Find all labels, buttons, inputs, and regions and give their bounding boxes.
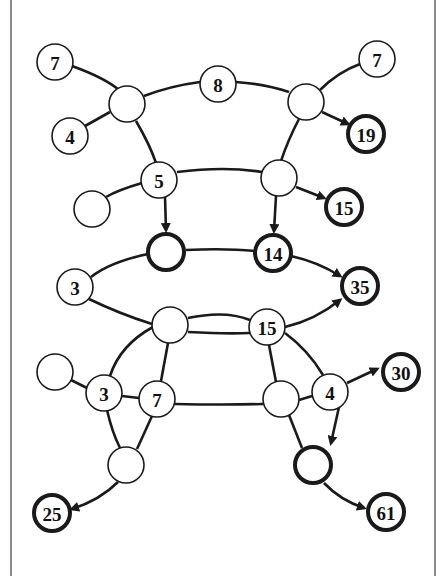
empty-node[interactable] [37,354,73,390]
number-node[interactable]: 15 [249,309,285,345]
arrow-edge [322,112,348,124]
target-node[interactable]: 19 [348,116,384,152]
arrow-edge [274,196,276,231]
node-circle [109,86,145,122]
node-label: 14 [264,244,284,265]
number-node[interactable]: 5 [141,162,177,198]
empty-node[interactable] [288,84,324,120]
node-circle [148,234,184,270]
target-node[interactable]: 35 [342,268,378,304]
edge [122,396,139,398]
number-node[interactable]: 3 [57,269,93,305]
target-node[interactable] [148,234,184,270]
empty-node[interactable] [261,160,297,196]
node-label: 15 [258,318,277,339]
edge [107,410,120,448]
edge [299,396,312,400]
empty-node[interactable] [108,447,144,483]
number-node[interactable]: 7 [359,41,395,77]
node-label: 35 [351,277,370,298]
node-label: 4 [325,383,335,404]
edge [269,345,276,382]
edge [137,416,152,449]
edge [161,343,168,381]
node-label: 7 [50,53,60,74]
arrow-edge [296,187,324,198]
edge [281,119,299,161]
empty-node[interactable] [152,307,188,343]
edge [91,254,148,277]
arrow-edge [285,300,340,327]
node-circle [37,354,73,390]
node-label: 4 [65,127,75,148]
edge [136,121,156,163]
empty-node[interactable] [74,191,110,227]
arrow-edge [72,482,118,509]
edge [71,380,87,388]
edge [144,82,200,96]
number-node[interactable]: 3 [86,375,122,411]
node-label: 15 [335,198,354,219]
edge [72,66,119,90]
edge [89,299,152,324]
target-node[interactable]: 61 [368,494,404,530]
arrow-edge [165,197,166,230]
number-node[interactable]: 8 [200,66,236,102]
diagram-frame: 7487195151433515374302561 [0,0,447,576]
edge [175,404,263,405]
edge [289,415,302,448]
nodes-layer: 7487195151433515374302561 [34,41,419,531]
arrow-edge [324,483,364,508]
node-label: 8 [213,75,223,96]
node-label: 61 [377,503,396,524]
target-node[interactable] [295,447,331,483]
node-circle [288,84,324,120]
node-label: 7 [372,50,382,71]
node-label: 19 [357,125,376,146]
target-node[interactable]: 15 [326,189,362,225]
edge [285,333,323,375]
edges-layer [71,64,377,509]
empty-node[interactable] [109,86,145,122]
node-label: 25 [43,504,62,525]
node-label: 30 [392,363,411,384]
node-label: 7 [152,390,162,411]
edge [188,314,250,320]
edge [188,332,250,333]
number-node[interactable]: 7 [37,44,73,80]
edge [106,183,142,197]
edge [85,112,110,126]
arrow-edge [347,369,377,383]
edge [236,82,289,92]
number-node[interactable]: 4 [52,118,88,154]
node-circle [261,160,297,196]
number-node[interactable]: 4 [312,374,348,410]
arrow-edge [291,256,340,276]
node-label: 3 [70,278,80,299]
edge [110,327,153,376]
node-circle [263,381,299,417]
edge [186,249,255,251]
empty-node[interactable] [263,381,299,417]
edge [320,64,360,90]
node-circle [152,307,188,343]
node-label: 3 [99,384,109,405]
node-label: 5 [154,171,164,192]
puzzle-graph: 7487195151433515374302561 [0,0,447,576]
node-circle [108,447,144,483]
node-circle [295,447,331,483]
edge [177,169,262,172]
target-node[interactable]: 30 [383,354,419,390]
arrow-edge [331,407,339,443]
target-node[interactable]: 25 [34,495,70,531]
node-circle [74,191,110,227]
target-node[interactable]: 14 [255,235,291,271]
number-node[interactable]: 7 [139,381,175,417]
